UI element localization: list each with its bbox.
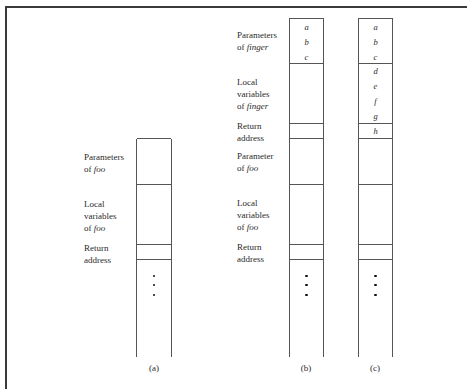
stack-column-c: a b c d e f g h xyxy=(358,18,393,357)
caption-b: (b) xyxy=(286,363,326,373)
label-params-finger: Parametersof finger xyxy=(237,29,277,53)
var-b: b xyxy=(290,37,323,47)
caption-c: (c) xyxy=(355,363,395,373)
ellipsis-dot xyxy=(305,294,307,296)
label-locals-foo-b: Local variablesof foo xyxy=(237,197,269,233)
var-c: c xyxy=(290,52,323,62)
label-locals-foo-a: Local variablesof foo xyxy=(84,198,116,234)
label-param-foo-b: Parameterof foo xyxy=(237,150,273,174)
label-locals-finger: Local variablesof finger xyxy=(237,76,269,112)
var-h: h xyxy=(359,126,392,136)
label-return-a: Return address xyxy=(84,242,111,266)
label-return-b1: Return address xyxy=(237,120,264,144)
var-b: b xyxy=(359,37,392,47)
ellipsis-dot xyxy=(153,294,155,296)
var-c: c xyxy=(359,52,392,62)
var-a: a xyxy=(290,22,323,32)
label-params-foo-a: Parametersof foo xyxy=(84,151,124,175)
ellipsis-dot xyxy=(374,294,376,296)
var-a: a xyxy=(359,22,392,32)
var-e: e xyxy=(359,81,392,91)
label-return-b2: Return address xyxy=(237,241,264,265)
ellipsis-dot xyxy=(153,284,155,286)
ellipsis-dot xyxy=(153,275,155,277)
stack-column-b: a b c xyxy=(289,18,324,357)
ellipsis-dot xyxy=(305,275,307,277)
var-g: g xyxy=(359,111,392,121)
stack-column-a xyxy=(136,139,172,357)
ellipsis-dot xyxy=(374,275,376,277)
var-d: d xyxy=(359,66,392,76)
ellipsis-dot xyxy=(374,284,376,286)
ellipsis-dot xyxy=(305,284,307,286)
var-f: f xyxy=(359,96,392,106)
figure-frame xyxy=(5,6,467,389)
caption-a: (a) xyxy=(134,363,174,373)
